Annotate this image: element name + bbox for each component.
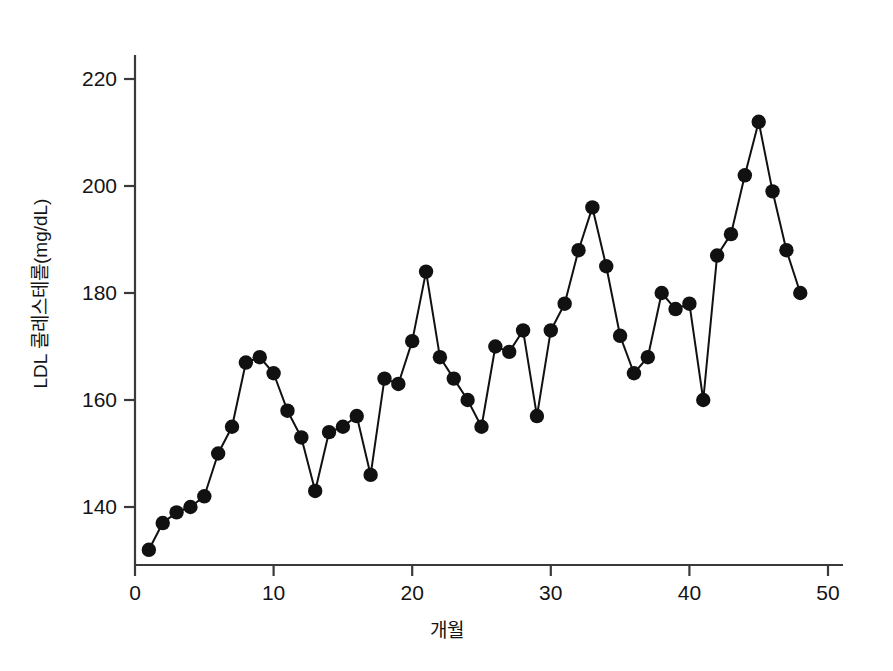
x-tick-label: 50 [816, 581, 839, 605]
data-point [765, 184, 779, 198]
y-tick-label: 160 [63, 388, 117, 412]
data-point [488, 339, 502, 353]
data-point [322, 425, 336, 439]
data-point [544, 323, 558, 337]
y-tick-label: 180 [63, 281, 117, 305]
data-point [474, 420, 488, 434]
data-point [419, 264, 433, 278]
data-point [391, 377, 405, 391]
data-point [793, 286, 807, 300]
data-point [682, 297, 696, 311]
data-point [197, 489, 211, 503]
data-point [696, 393, 710, 407]
data-series [142, 115, 808, 557]
data-point [779, 243, 793, 257]
data-point [502, 345, 516, 359]
x-tick-label: 0 [129, 581, 141, 605]
data-point [557, 297, 571, 311]
axes [124, 55, 843, 576]
data-point [377, 371, 391, 385]
data-point [363, 468, 377, 482]
data-point [239, 355, 253, 369]
x-tick-label: 20 [401, 581, 424, 605]
data-point [336, 420, 350, 434]
y-tick-label: 200 [63, 174, 117, 198]
data-point [142, 543, 156, 557]
data-point [599, 259, 613, 273]
data-point [585, 200, 599, 214]
data-point [433, 350, 447, 364]
data-point [571, 243, 585, 257]
data-point [280, 404, 294, 418]
y-tick-label: 220 [63, 67, 117, 91]
x-tick-label: 40 [678, 581, 701, 605]
data-point [710, 248, 724, 262]
x-tick-label: 10 [262, 581, 285, 605]
data-point [294, 430, 308, 444]
data-point [225, 420, 239, 434]
data-point [266, 366, 280, 380]
data-point [516, 323, 530, 337]
data-point [738, 168, 752, 182]
data-point [460, 393, 474, 407]
data-point [211, 446, 225, 460]
data-point [183, 500, 197, 514]
data-point [169, 505, 183, 519]
data-point [668, 302, 682, 316]
data-point [308, 484, 322, 498]
y-tick-label: 140 [63, 495, 117, 519]
data-point [156, 516, 170, 530]
data-point [350, 409, 364, 423]
data-point [613, 329, 627, 343]
data-point [627, 366, 641, 380]
data-point [724, 227, 738, 241]
data-point [654, 286, 668, 300]
data-point [253, 350, 267, 364]
data-point [405, 334, 419, 348]
data-point [641, 350, 655, 364]
data-point [752, 115, 766, 129]
line-chart-plot [0, 0, 893, 671]
y-axis-label: LDL 콜레스테롤(mg/dL) [25, 124, 52, 464]
x-tick-label: 30 [539, 581, 562, 605]
x-axis-label: 개월 [0, 615, 893, 642]
data-point [530, 409, 544, 423]
chart-figure: LDL 콜레스테롤(mg/dL) 개월 14016018020022001020… [0, 0, 893, 671]
data-point [447, 371, 461, 385]
